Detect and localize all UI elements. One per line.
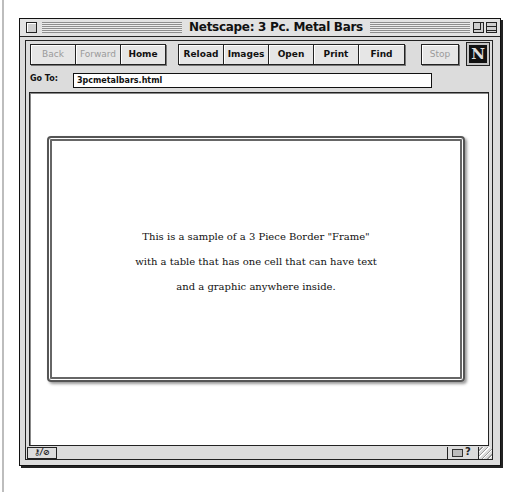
status-divider	[447, 447, 448, 459]
nav-button-group: Back Forward Home	[30, 44, 166, 65]
find-button[interactable]: Find	[359, 45, 404, 64]
text-line-2: with a table that has one cell that can …	[49, 249, 463, 274]
collapse-box-icon[interactable]	[486, 22, 497, 33]
text-line-1: This is a sample of a 3 Piece Border "Fr…	[49, 224, 463, 249]
title-stripes-left	[42, 22, 182, 33]
window-body: Back Forward Home Reload Images Open Pri…	[25, 40, 493, 460]
home-button[interactable]: Home	[121, 45, 165, 64]
location-bar: Go To:	[26, 70, 492, 92]
action-button-group: Reload Images Open Print Find	[178, 44, 405, 65]
back-button[interactable]: Back	[31, 45, 76, 64]
location-input[interactable]	[73, 73, 432, 88]
images-button[interactable]: Images	[224, 45, 269, 64]
location-label: Go To:	[30, 74, 58, 83]
broken-key-icon[interactable]: ⚷/⊘	[27, 447, 57, 459]
stop-button[interactable]: Stop	[422, 45, 458, 64]
text-line-3: and a graphic anywhere inside.	[49, 274, 463, 299]
mail-icon[interactable]	[452, 449, 463, 457]
forward-button[interactable]: Forward	[76, 45, 121, 64]
status-text	[60, 447, 432, 459]
toolbar: Back Forward Home Reload Images Open Pri…	[26, 41, 492, 71]
metal-bar-frame: This is a sample of a 3 Piece Border "Fr…	[47, 136, 465, 382]
close-box-icon[interactable]	[26, 22, 37, 33]
desktop-edge	[2, 0, 4, 492]
zoom-box-icon[interactable]	[473, 22, 484, 33]
stop-button-group: Stop	[421, 44, 459, 65]
reload-button[interactable]: Reload	[179, 45, 224, 64]
frame-text: This is a sample of a 3 Piece Border "Fr…	[49, 224, 463, 299]
title-bar[interactable]: Netscape: 3 Pc. Metal Bars	[20, 19, 500, 37]
help-icon[interactable]: ?	[465, 446, 471, 457]
print-button[interactable]: Print	[314, 45, 359, 64]
open-button[interactable]: Open	[269, 45, 314, 64]
title-stripes-right	[370, 22, 470, 33]
window-title: Netscape: 3 Pc. Metal Bars	[184, 20, 368, 34]
browser-window: Netscape: 3 Pc. Metal Bars Back Forward …	[19, 18, 501, 466]
status-bar: ⚷/⊘ ?	[26, 447, 492, 459]
resize-grip[interactable]	[478, 447, 492, 459]
netscape-logo[interactable]: N	[466, 42, 490, 66]
netscape-n-icon: N	[469, 45, 487, 63]
page-viewport[interactable]: This is a sample of a 3 Piece Border "Fr…	[29, 92, 489, 446]
